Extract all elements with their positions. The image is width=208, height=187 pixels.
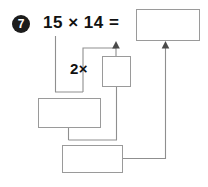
multiplier-label: 2× xyxy=(70,60,88,77)
equation-text: 15 × 14 = xyxy=(43,13,119,33)
worksheet-problem-canvas: 7 15 × 14 = 2× xyxy=(0,0,208,187)
arrowhead-into-bracket xyxy=(112,41,120,49)
product-answer-box[interactable] xyxy=(136,9,200,41)
arrowhead-into-product-box xyxy=(162,41,170,49)
wide-answer-box[interactable] xyxy=(38,98,101,128)
bottom-answer-box[interactable] xyxy=(62,145,123,173)
small-answer-box[interactable] xyxy=(102,56,131,87)
problem-number-badge: 7 xyxy=(12,15,30,33)
